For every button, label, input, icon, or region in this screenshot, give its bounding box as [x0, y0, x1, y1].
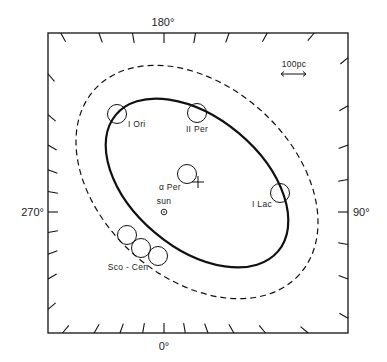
longitude-tick-30: [229, 324, 234, 333]
label-ii-per: II Per: [186, 124, 208, 134]
longitude-tick-40: [259, 325, 265, 333]
label-180: 180°: [152, 16, 175, 28]
longitude-tick-50: [301, 327, 309, 333]
longitude-tick-260: [48, 192, 58, 194]
longitude-tick-140: [308, 33, 314, 41]
label-sco-cen: Sco - Cen: [108, 262, 149, 272]
longitude-tick-290: [48, 251, 57, 254]
longitude-tick-130: [340, 58, 348, 64]
longitude-tick-280: [48, 231, 58, 233]
scale-bar-label: 100pc: [282, 59, 307, 69]
longitude-tick-250: [48, 170, 57, 173]
longitude-tick-350: [143, 323, 145, 333]
longitude-tick-100: [338, 180, 348, 182]
longitude-tick-330: [94, 324, 99, 333]
longitude-tick-20: [205, 324, 208, 333]
longitude-tick-200: [99, 33, 102, 42]
association-sco-cen-3: [149, 247, 168, 266]
longitude-tick-340: [120, 324, 123, 333]
longitude-tick-120: [339, 106, 348, 111]
longitude-tick-230: [48, 115, 56, 121]
longitude-tick-110: [339, 145, 348, 148]
longitude-tick-70: [339, 276, 348, 279]
association-alpha-per: [178, 165, 197, 184]
label-i-lac: I Lac: [252, 199, 272, 209]
label-i-ori: I Ori: [128, 119, 146, 129]
longitude-tick-80: [338, 243, 348, 245]
longitude-tick-60: [339, 313, 348, 318]
longitude-tick-160: [226, 33, 229, 42]
longitude-tick-210: [61, 33, 66, 42]
longitude-tick-240: [48, 145, 57, 150]
diagram: 180° 0° 270° 90° 100pc I Ori II Per α Pe…: [0, 0, 387, 362]
label-270: 270°: [21, 206, 44, 218]
longitude-tick-310: [48, 303, 56, 309]
longitude-tick-320: [62, 325, 68, 333]
longitude-tick-300: [48, 274, 57, 279]
label-alpha-per: α Per: [159, 182, 181, 192]
alpha-per-centre-cross-icon: [192, 176, 204, 188]
longitude-tick-10: [184, 323, 186, 333]
label-90: 90°: [353, 206, 370, 218]
sun-symbol-icon: [161, 209, 167, 215]
longitude-tick-170: [194, 33, 196, 43]
longitude-tick-190: [132, 33, 134, 43]
scale-bar: [281, 72, 306, 77]
association-sco-cen-2: [132, 239, 151, 258]
longitude-tick-150: [262, 33, 267, 42]
label-0: 0°: [159, 340, 170, 352]
label-sun: sun: [157, 196, 172, 206]
longitude-tick-220: [48, 74, 54, 82]
